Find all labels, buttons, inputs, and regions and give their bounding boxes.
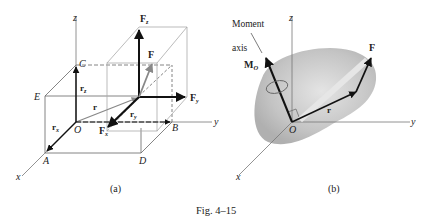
point-O-a: O	[74, 124, 81, 135]
z-axis-label-b: z	[288, 12, 293, 23]
y-axis-label-b: y	[410, 116, 416, 127]
panel-b-label: (b)	[328, 183, 340, 195]
point-C: C	[79, 58, 86, 69]
F-label-b: F	[369, 42, 375, 53]
rigid-body	[254, 48, 376, 144]
Fz-label: Fz	[140, 13, 149, 25]
Fy-label: Fy	[190, 92, 199, 104]
rx-label: rx	[52, 122, 59, 133]
F-vector-a	[139, 64, 152, 97]
F-label-a: F	[148, 49, 154, 60]
panel-b: Moment axis MO F r O z y x (b)	[232, 12, 416, 195]
r-label-a: r	[93, 102, 97, 112]
figure-4-15: z y x C E O A D B rz rx r ry Fz F Fy Fx …	[0, 0, 438, 220]
r-label-b: r	[327, 105, 331, 115]
panel-a-label: (a)	[110, 183, 121, 195]
point-B: B	[172, 122, 178, 133]
moment-axis-pointer	[251, 33, 262, 53]
x-axis-label-b: x	[235, 171, 241, 182]
moment-axis-label-line2: axis	[232, 43, 248, 53]
panel-a: z y x C E O A D B rz rx r ry Fz F Fy Fx …	[15, 12, 219, 195]
ry-label: ry	[130, 109, 137, 120]
point-D: D	[138, 155, 147, 166]
r-vector	[76, 98, 137, 122]
moment-axis-label-line1: Moment	[232, 19, 265, 29]
figure-caption: Fig. 4–15	[196, 205, 236, 216]
x-axis-label-a: x	[15, 171, 21, 182]
point-E: E	[33, 91, 40, 102]
rz-label: rz	[80, 83, 87, 94]
y-axis-label-a: y	[213, 116, 219, 127]
z-axis-label-a: z	[72, 12, 77, 23]
MO-label: MO	[244, 59, 258, 71]
origin-O-b: O	[289, 124, 296, 135]
point-A: A	[42, 155, 50, 166]
